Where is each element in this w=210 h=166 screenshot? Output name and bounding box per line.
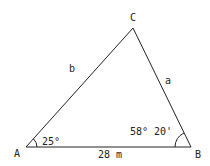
- angle-a-arc-icon: [33, 139, 37, 147]
- side-b-label: b: [69, 63, 75, 74]
- side-b-line: [26, 28, 133, 147]
- angle-b-arc-icon: [175, 133, 184, 147]
- vertex-a-label: A: [14, 148, 20, 159]
- angle-a-label: 25°: [42, 136, 60, 147]
- triangle-diagram: C A B b a 28 m 25° 58° 20': [0, 0, 210, 166]
- side-c-label: 28 m: [98, 149, 122, 160]
- vertex-b-label: B: [195, 149, 201, 160]
- vertex-c-label: C: [130, 12, 136, 23]
- angle-b-label: 58° 20': [130, 126, 172, 137]
- side-a-label: a: [165, 75, 171, 86]
